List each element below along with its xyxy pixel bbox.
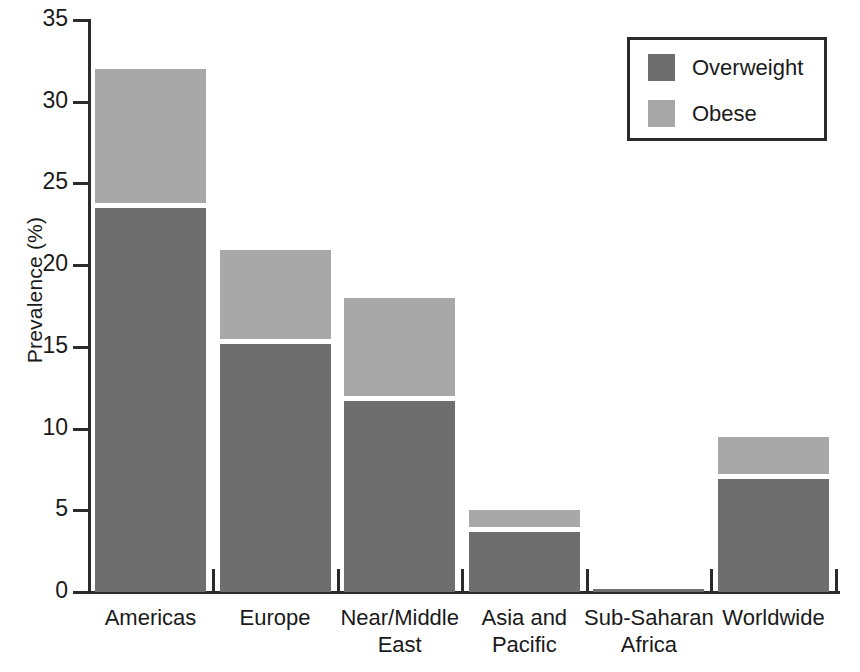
y-tick-5 xyxy=(73,509,90,512)
y-tick-label-10: 10 xyxy=(0,416,68,439)
bar-segment-overweight xyxy=(344,401,455,592)
y-tick-20 xyxy=(73,264,90,267)
y-tick-0 xyxy=(73,591,90,594)
x-tick-5 xyxy=(835,569,838,594)
bar-segment-obese xyxy=(718,437,829,475)
bar-segment-overweight xyxy=(593,589,704,592)
bar-segment-overweight xyxy=(718,479,829,592)
x-tick-1 xyxy=(337,569,340,594)
bar-asia-and-pacific xyxy=(469,20,580,592)
x-tick-3 xyxy=(586,569,589,594)
y-axis-line xyxy=(88,19,91,594)
x-axis-label-1: Europe xyxy=(206,604,345,631)
y-tick-25 xyxy=(73,182,90,185)
bar-near-middle-east xyxy=(344,20,455,592)
x-axis-label-2: Near/Middle East xyxy=(330,604,469,658)
legend-swatch-obese xyxy=(648,100,675,127)
bar-segment-obese xyxy=(344,298,455,396)
bar-europe xyxy=(220,20,331,592)
x-tick-4 xyxy=(710,569,713,594)
bar-segment-overweight xyxy=(469,532,580,592)
y-tick-30 xyxy=(73,101,90,104)
legend-label-obese: Obese xyxy=(692,103,757,125)
bar-segment-obese xyxy=(220,250,331,338)
x-axis-label-0: Americas xyxy=(81,604,220,631)
y-tick-label-35: 35 xyxy=(0,7,68,30)
bar-americas xyxy=(95,20,206,592)
y-tick-10 xyxy=(73,428,90,431)
y-tick-label-30: 30 xyxy=(0,89,68,112)
legend-swatch-overweight xyxy=(648,54,675,81)
x-axis-label-5: Worldwide xyxy=(704,604,843,631)
x-axis-label-4: Sub-Saharan Africa xyxy=(579,604,718,658)
y-tick-label-0: 0 xyxy=(0,579,68,602)
y-tick-15 xyxy=(73,346,90,349)
chart-container: Prevalence (%) 05101520253035 AmericasEu… xyxy=(0,0,860,672)
legend: Overweight Obese xyxy=(627,37,827,141)
bar-segment-obese xyxy=(469,510,580,526)
legend-label-overweight: Overweight xyxy=(692,57,803,79)
x-axis-label-3: Asia and Pacific xyxy=(455,604,594,658)
y-tick-35 xyxy=(73,19,90,22)
y-tick-label-20: 20 xyxy=(0,252,68,275)
bar-segment-overweight xyxy=(220,344,331,592)
y-tick-label-15: 15 xyxy=(0,334,68,357)
y-tick-label-5: 5 xyxy=(0,497,68,520)
bar-segment-overweight xyxy=(95,208,206,592)
legend-item-overweight: Overweight xyxy=(648,54,803,81)
legend-item-obese: Obese xyxy=(648,100,757,127)
x-tick-0 xyxy=(212,569,215,594)
y-tick-label-25: 25 xyxy=(0,170,68,193)
x-tick-2 xyxy=(461,569,464,594)
bar-segment-obese xyxy=(95,69,206,203)
